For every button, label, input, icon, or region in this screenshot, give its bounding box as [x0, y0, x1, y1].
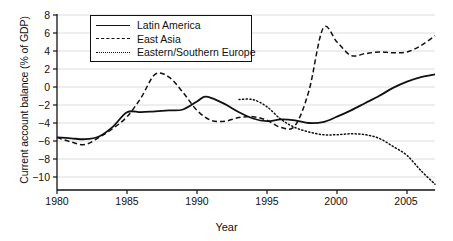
- legend-label: East Asia: [137, 34, 181, 45]
- series-line-latin-america: [57, 74, 435, 139]
- legend-entry-latin-america: Latin America: [96, 19, 246, 33]
- legend-swatch-dotted-icon: [96, 48, 130, 58]
- legend-swatch-dashed-icon: [96, 34, 130, 44]
- legend-label: Latin America: [137, 20, 201, 31]
- chart-legend: Latin America East Asia Eastern/Southern…: [90, 15, 252, 62]
- chart-figure: Current account balance (% of GDP) 8 6 4…: [0, 0, 453, 241]
- legend-entry-eastern-southern-europe: Eastern/Southern Europe: [96, 46, 246, 60]
- legend-entry-east-asia: East Asia: [96, 33, 246, 47]
- legend-swatch-solid-icon: [96, 21, 130, 31]
- legend-label: Eastern/Southern Europe: [137, 47, 256, 58]
